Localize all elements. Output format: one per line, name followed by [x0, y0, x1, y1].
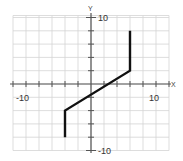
y-min-tick-label: -10 [98, 146, 111, 156]
x-min-tick-label: -10 [16, 93, 29, 103]
x-max-tick-label: 10 [149, 93, 159, 103]
coordinate-plane: X Y -10 10 10 -10 [0, 0, 183, 161]
x-axis-label: X [171, 81, 176, 88]
y-max-tick-label: 10 [98, 13, 108, 23]
axes [10, 13, 171, 153]
y-axis-label: Y [88, 5, 93, 12]
